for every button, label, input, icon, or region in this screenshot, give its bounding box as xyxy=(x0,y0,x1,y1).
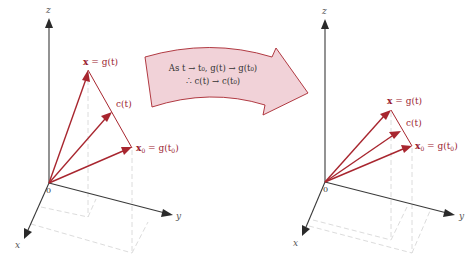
arrow-head-icon xyxy=(101,112,112,122)
right-z-axis-label: z xyxy=(321,6,327,16)
right-z-axis xyxy=(321,19,329,182)
right-label-c-t: c(t) xyxy=(406,118,422,128)
banner-line-2: ∴ c(t) → c(t₀) xyxy=(186,76,240,86)
right-x-axis xyxy=(302,182,325,236)
left-vector-x0 xyxy=(49,147,132,183)
left-x-axis-label: x xyxy=(15,240,20,250)
left-curve-chord xyxy=(88,70,132,148)
arrow-head-icon xyxy=(121,147,132,155)
arrow-head-icon xyxy=(443,209,455,217)
left-label-x-equals-g-t: x = g(t) xyxy=(83,57,118,67)
left-y-axis-label: y xyxy=(175,211,182,221)
left-y-axis xyxy=(49,183,173,217)
left-vector-c xyxy=(49,112,112,183)
left-vector-x xyxy=(49,70,90,183)
right-curve-chord xyxy=(391,110,412,146)
arrow-head-icon xyxy=(321,19,329,29)
right-origin-label: 0 xyxy=(323,185,328,194)
right-x-axis-label: x xyxy=(293,238,298,248)
arrow-head-icon xyxy=(401,145,412,153)
limit-of-vector-function-diagram: z y x 0 x = g(t) c(t) x0 = g(t0) As t → … xyxy=(0,0,472,270)
right-y-axis-label: y xyxy=(458,211,465,221)
limit-banner-arrow: As t → t₀, g(t) → g(t₀) ∴ c(t) → c(t₀) xyxy=(145,48,308,116)
left-z-axis-label: z xyxy=(45,5,51,15)
left-label-x0-equals-g-t0: x0 = g(t0) xyxy=(136,143,179,154)
right-y-axis xyxy=(325,182,455,217)
left-panel: z y x 0 x = g(t) c(t) x0 = g(t0) xyxy=(15,5,182,253)
right-label-x0-equals-g-t0: x0 = g(t0) xyxy=(415,141,458,152)
left-label-c-t: c(t) xyxy=(116,99,132,109)
left-z-axis xyxy=(45,18,53,183)
right-label-x-equals-g-t: x = g(t) xyxy=(387,96,422,106)
arrow-head-icon xyxy=(161,209,173,217)
right-vector-x xyxy=(325,110,391,182)
arrow-head-icon xyxy=(45,18,53,28)
right-panel: z y x 0 x = g(t) c(t) x0 = g(t0) xyxy=(293,6,465,253)
left-origin-label: 0 xyxy=(46,186,51,195)
right-vector-x0 xyxy=(325,145,412,182)
banner-line-1: As t → t₀, g(t) → g(t₀) xyxy=(168,63,257,73)
